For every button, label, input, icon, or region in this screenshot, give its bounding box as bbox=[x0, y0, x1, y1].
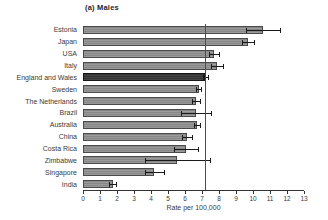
error-whisker bbox=[209, 54, 219, 55]
bar bbox=[83, 97, 196, 105]
bar bbox=[83, 121, 197, 129]
error-whisker bbox=[242, 42, 254, 43]
category-label: India bbox=[0, 181, 77, 188]
error-whisker-cap bbox=[211, 111, 212, 116]
error-whisker bbox=[192, 101, 201, 102]
category-label: England and Wales bbox=[0, 74, 77, 81]
error-whisker-cap bbox=[246, 28, 247, 33]
x-axis-tick bbox=[253, 191, 254, 194]
x-axis-tick-label: 2 bbox=[115, 195, 119, 202]
category-label: Sweden bbox=[0, 86, 77, 93]
x-axis-tick bbox=[100, 191, 101, 194]
error-whisker-cap bbox=[223, 64, 224, 69]
error-whisker-cap bbox=[203, 75, 204, 80]
x-axis: 012345678910111213 bbox=[83, 191, 304, 205]
error-whisker-cap bbox=[164, 170, 165, 175]
bar bbox=[83, 38, 248, 46]
error-whisker-cap bbox=[209, 52, 210, 57]
error-whisker-cap bbox=[201, 87, 202, 92]
error-whisker-cap bbox=[198, 147, 199, 152]
x-axis-tick bbox=[151, 191, 152, 194]
error-whisker-cap bbox=[254, 40, 255, 45]
category-label: USA bbox=[0, 50, 77, 57]
bar bbox=[83, 73, 205, 81]
x-axis-tick bbox=[117, 191, 118, 194]
category-label: Costa Rica bbox=[0, 145, 77, 152]
x-axis-tick-label: 6 bbox=[183, 195, 187, 202]
category-label: Zimbabwe bbox=[0, 157, 77, 164]
x-axis-tick bbox=[219, 191, 220, 194]
x-axis-label: Rate per 100,000 bbox=[83, 204, 304, 211]
error-whisker-cap bbox=[196, 87, 197, 92]
bar bbox=[83, 26, 263, 34]
bar bbox=[83, 145, 186, 153]
x-axis-tick-label: 11 bbox=[267, 195, 274, 202]
category-label: China bbox=[0, 133, 77, 140]
x-axis-tick-label: 3 bbox=[132, 195, 136, 202]
bar bbox=[83, 133, 187, 141]
category-label: Estonia bbox=[0, 26, 77, 33]
x-axis-tick bbox=[236, 191, 237, 194]
error-whisker-cap bbox=[145, 158, 146, 163]
x-axis-tick-label: 5 bbox=[166, 195, 170, 202]
error-whisker-cap bbox=[182, 135, 183, 140]
x-axis-tick-label: 4 bbox=[149, 195, 153, 202]
error-whisker-cap bbox=[280, 28, 281, 33]
error-whisker-cap bbox=[208, 75, 209, 80]
x-axis-tick bbox=[287, 191, 288, 194]
bar bbox=[83, 180, 113, 188]
error-whisker bbox=[174, 149, 198, 150]
x-axis-tick bbox=[270, 191, 271, 194]
category-label: Japan bbox=[0, 38, 77, 45]
bar bbox=[83, 50, 214, 58]
y-category-labels: EstoniaJapanUSAItalyEngland and WalesSwe… bbox=[0, 24, 80, 190]
error-whisker-cap bbox=[192, 99, 193, 104]
error-whisker-cap bbox=[192, 135, 193, 140]
error-whisker bbox=[194, 125, 201, 126]
x-axis-tick bbox=[83, 191, 84, 194]
x-axis-tick bbox=[202, 191, 203, 194]
plot-area bbox=[83, 24, 304, 191]
error-whisker-cap bbox=[181, 111, 182, 116]
error-whisker bbox=[182, 137, 192, 138]
category-label: Italy bbox=[0, 62, 77, 69]
chart-title: (a) Males bbox=[85, 3, 119, 12]
x-axis-tick-label: 0 bbox=[81, 195, 85, 202]
chart-screenshot: (a) Males EstoniaJapanUSAItalyEngland an… bbox=[0, 0, 328, 220]
x-axis-tick bbox=[168, 191, 169, 194]
error-whisker-cap bbox=[219, 52, 220, 57]
x-axis-tick bbox=[304, 191, 305, 194]
x-axis-tick-label: 8 bbox=[217, 195, 221, 202]
error-whisker-cap bbox=[200, 99, 201, 104]
x-axis-tick-label: 9 bbox=[234, 195, 238, 202]
bar bbox=[83, 109, 196, 117]
error-whisker-cap bbox=[116, 182, 117, 187]
x-axis-tick-label: 13 bbox=[300, 195, 307, 202]
category-label: Brazil bbox=[0, 109, 77, 116]
error-whisker-cap bbox=[210, 158, 211, 163]
error-whisker bbox=[145, 160, 210, 161]
error-whisker bbox=[109, 184, 116, 185]
x-axis-tick-label: 12 bbox=[283, 195, 290, 202]
x-axis-tick-label: 1 bbox=[98, 195, 102, 202]
bar bbox=[83, 62, 217, 70]
category-label: Singapore bbox=[0, 169, 77, 176]
error-whisker bbox=[246, 30, 280, 31]
bar bbox=[83, 168, 154, 176]
error-whisker bbox=[181, 113, 212, 114]
x-axis-tick bbox=[134, 191, 135, 194]
reference-line bbox=[205, 24, 206, 190]
bar bbox=[83, 85, 199, 93]
error-whisker bbox=[145, 172, 164, 173]
error-whisker-cap bbox=[174, 147, 175, 152]
x-axis-tick-label: 7 bbox=[200, 195, 204, 202]
error-whisker-cap bbox=[242, 40, 243, 45]
category-label: Australia bbox=[0, 121, 77, 128]
error-whisker-cap bbox=[145, 170, 146, 175]
error-whisker-cap bbox=[211, 64, 212, 69]
error-whisker bbox=[211, 66, 223, 67]
error-whisker-cap bbox=[194, 123, 195, 128]
x-axis-tick-label: 10 bbox=[249, 195, 256, 202]
error-whisker-cap bbox=[200, 123, 201, 128]
error-whisker-cap bbox=[109, 182, 110, 187]
